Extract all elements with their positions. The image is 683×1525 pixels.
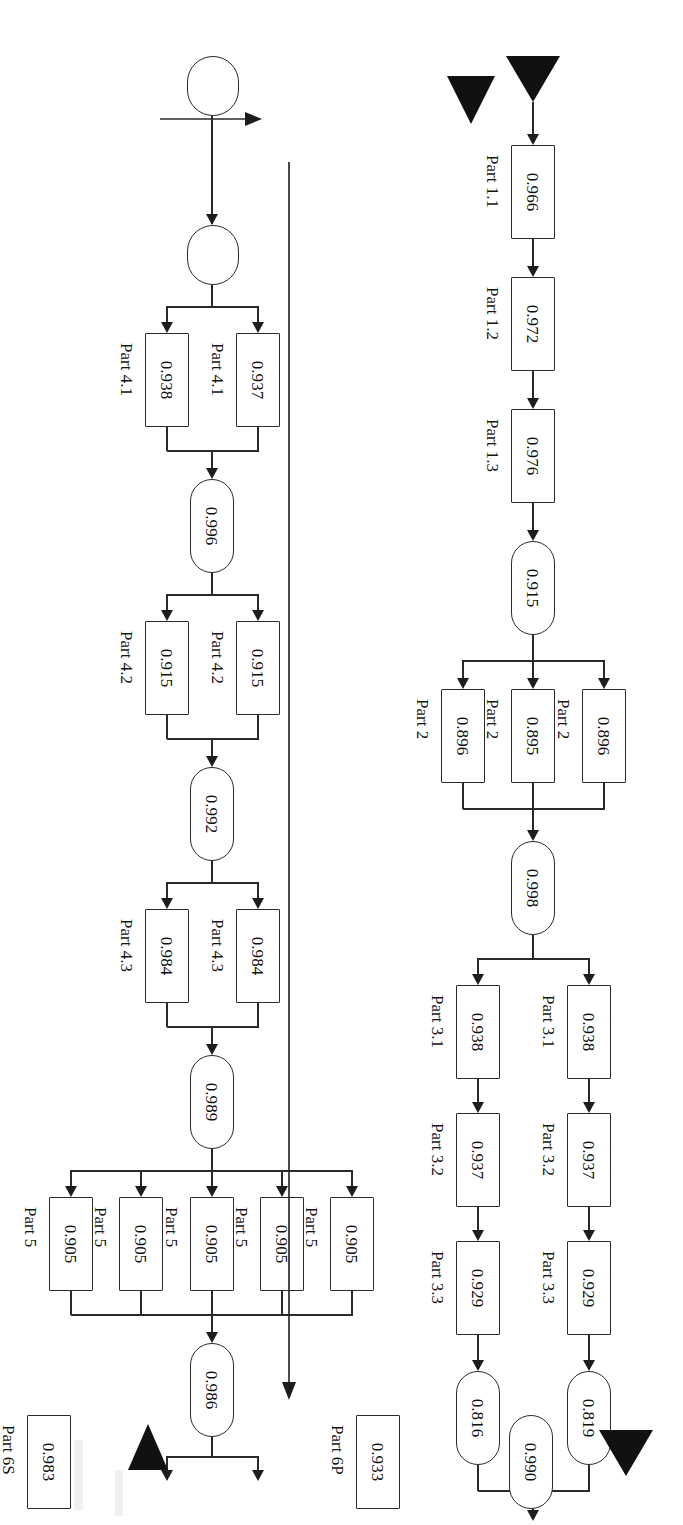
- part-4-3-b-block[interactable]: 0.984: [145, 909, 189, 1003]
- part-3-3-b-block[interactable]: 0.929: [456, 1241, 500, 1335]
- part-3-1-a-block[interactable]: 0.938: [567, 985, 611, 1079]
- part-4-3-branch-a-out: [257, 1003, 259, 1027]
- arrowhead-into-sub-3: [527, 1510, 539, 1521]
- edge-sub-4-1-to-part-4-2-bus: [211, 573, 213, 595]
- part-4-2-branch-b-out: [166, 715, 168, 739]
- part-3-3-a-caption: Part 3.3: [540, 1251, 557, 1304]
- part-1-3-block[interactable]: 0.976: [511, 409, 555, 503]
- part-2-a-block[interactable]: 0.896: [582, 689, 626, 783]
- part-3-1-b-block[interactable]: 0.938: [456, 985, 500, 1079]
- part-5-d-value: 0.905: [133, 1225, 150, 1264]
- arrowhead-into-part-4-1-b: [161, 322, 173, 333]
- edge-sub-4-2-to-part-4-3-bus: [211, 861, 213, 883]
- part-3-2-b-value: 0.937: [470, 1141, 487, 1180]
- part-4-2-a-block[interactable]: 0.915: [236, 621, 280, 715]
- arrowhead-into-part-5-a: [346, 1186, 358, 1197]
- arrowhead-into-connector-right: [206, 214, 218, 225]
- part-5-b-caption: Part 5: [233, 1207, 250, 1247]
- part-4-3-b-caption: Part 4.3: [118, 919, 135, 972]
- part-4-2-b-block[interactable]: 0.915: [145, 621, 189, 715]
- part-5-c-block[interactable]: 0.905: [190, 1197, 234, 1291]
- part-3-3-a-block[interactable]: 0.929: [567, 1241, 611, 1335]
- edge-sub-1-to-part-2-bus: [532, 635, 534, 661]
- part-6p-block[interactable]: 0.933: [356, 1415, 400, 1509]
- part-3-3-b-caption: Part 3.3: [429, 1251, 446, 1304]
- arrowhead-into-part-2-c: [457, 678, 469, 689]
- subtotal-part-4-2-capsule[interactable]: 0.992: [190, 767, 234, 861]
- part-3-2-a-value: 0.937: [581, 1141, 598, 1180]
- part-4-2-b-caption: Part 4.2: [118, 631, 135, 684]
- part-5-a-block[interactable]: 0.905: [330, 1197, 374, 1291]
- part-5-a-caption: Part 5: [303, 1207, 320, 1247]
- scan-artifact-a: [74, 1440, 83, 1510]
- part-1-1-block[interactable]: 0.966: [511, 145, 555, 239]
- part-3-2-b-block[interactable]: 0.937: [456, 1113, 500, 1207]
- page-connector-in-left[interactable]: [187, 56, 239, 116]
- part-3-chain-a-out: [588, 1465, 590, 1491]
- arrowhead-into-sub-2: [527, 830, 539, 841]
- part-3-2-a-caption: Part 3.2: [540, 1123, 557, 1176]
- arrowhead-into-part-5-b: [276, 1186, 288, 1197]
- subtotal-part-5-capsule[interactable]: 0.986: [190, 1343, 234, 1437]
- system-reliability-value: 0.990: [523, 1443, 540, 1482]
- part-5-a-value: 0.905: [344, 1225, 361, 1264]
- part-5-d-block[interactable]: 0.905: [119, 1197, 163, 1291]
- subtotal-part-4-3-value: 0.989: [204, 1083, 221, 1122]
- arrowhead-into-part-2-b: [527, 678, 539, 689]
- part-5-branch-d-out: [140, 1291, 142, 1315]
- subtotal-part-2-value: 0.998: [525, 869, 542, 908]
- subtotal-part-4-3-capsule[interactable]: 0.989: [190, 1055, 234, 1149]
- arrowhead-into-part-6s: [161, 1470, 173, 1481]
- system-reliability-capsule[interactable]: 0.990: [509, 1415, 553, 1509]
- part-4-3-output-bus: [167, 1026, 259, 1028]
- part-4-1-b-block[interactable]: 0.938: [145, 333, 189, 427]
- arrowhead-into-sub-4-2: [206, 756, 218, 767]
- part-6s-caption: Part 6S: [0, 1425, 17, 1475]
- part-5-b-block[interactable]: 0.905: [260, 1197, 304, 1291]
- part-5-e-block[interactable]: 0.905: [49, 1197, 93, 1291]
- subtotal-part-4-1-capsule[interactable]: 0.996: [190, 479, 234, 573]
- arrowhead-into-part-3-2-b: [472, 1102, 484, 1113]
- part-1-1-caption: Part 1.1: [484, 155, 501, 208]
- subtotal-part-1-capsule[interactable]: 0.915: [511, 541, 555, 635]
- part-2-branch-b-out: [532, 783, 534, 809]
- part-3-3-b-value: 0.929: [470, 1269, 487, 1308]
- subtotal-part-1-value: 0.915: [525, 569, 542, 608]
- part-3-2-a-block[interactable]: 0.937: [567, 1113, 611, 1207]
- part-2-b-block[interactable]: 0.895: [511, 689, 555, 783]
- part-4-2-a-value: 0.915: [250, 649, 267, 688]
- part-5-branch-b-out: [281, 1291, 283, 1315]
- part-6s-block[interactable]: 0.983: [27, 1415, 71, 1509]
- arrowhead-into-part-4-2-b: [161, 610, 173, 621]
- subtotal-part-3-b-capsule[interactable]: 0.816: [456, 1371, 500, 1465]
- edge-sub-4-3-to-part-5-bus: [211, 1149, 213, 1171]
- part-1-3-value: 0.976: [525, 437, 542, 476]
- part-4-2-a-caption: Part 4.2: [209, 631, 226, 684]
- part-4-1-a-block[interactable]: 0.937: [236, 333, 280, 427]
- part-4-3-b-value: 0.984: [159, 937, 176, 976]
- part-1-2-block[interactable]: 0.972: [511, 277, 555, 371]
- part-2-c-block[interactable]: 0.896: [441, 689, 485, 783]
- subtotal-part-4-1-value: 0.996: [204, 507, 221, 546]
- arrowhead-into-part-4-3-a: [252, 898, 264, 909]
- arrowhead-into-part-1-3: [527, 398, 539, 409]
- subtotal-part-2-capsule[interactable]: 0.998: [511, 841, 555, 935]
- part-2-input-bus: [463, 660, 605, 662]
- part-4-3-a-block[interactable]: 0.984: [236, 909, 280, 1003]
- part-4-1-a-caption: Part 4.1: [209, 343, 226, 396]
- part-5-c-value: 0.905: [204, 1225, 221, 1264]
- arrowhead-into-part-5-e: [65, 1186, 77, 1197]
- part-4-1-input-bus: [167, 306, 259, 308]
- part-2-c-value: 0.896: [455, 717, 472, 756]
- part-2-output-bus: [463, 808, 605, 810]
- part-3-2-b-caption: Part 3.2: [429, 1123, 446, 1176]
- page-connector-in-right[interactable]: [187, 225, 239, 285]
- arrowhead-into-part-3-1-b: [472, 974, 484, 985]
- part-4-1-b-value: 0.938: [159, 361, 176, 400]
- part-3-1-a-value: 0.938: [581, 1013, 598, 1052]
- part-3-chain-b-out: [477, 1465, 479, 1491]
- part-5-e-value: 0.905: [63, 1225, 80, 1264]
- part-4-3-input-bus: [167, 882, 259, 884]
- system-end-marker: [599, 1430, 653, 1476]
- part-4-1-branch-b-out: [166, 427, 168, 451]
